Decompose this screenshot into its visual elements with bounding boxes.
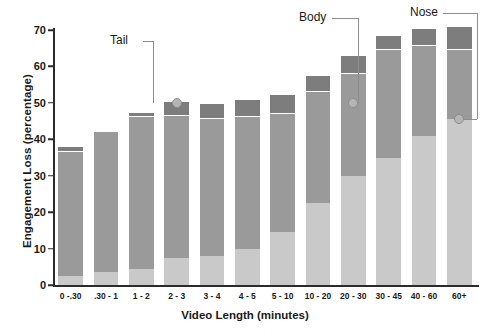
bar-segment-body: [164, 115, 189, 258]
bar-column: [94, 131, 119, 285]
bar-column: [200, 103, 225, 285]
annotation-marker-tail: [172, 98, 182, 108]
bar-segment-nose: [235, 249, 260, 285]
bar-segment-tail: [412, 28, 437, 45]
x-tick-label: 10 - 20: [305, 291, 331, 301]
x-tick-label: 3 - 4: [203, 291, 220, 301]
bar-segment-tail: [270, 94, 295, 113]
bar-segment-body: [412, 45, 437, 135]
bar-column: [306, 75, 331, 285]
engagement-loss-bar-chart: Engagement Loss (percentage) 01020304050…: [0, 0, 490, 336]
bar-segment-body: [94, 131, 119, 272]
bar-segment-tail: [341, 55, 366, 72]
bar-column: [235, 99, 260, 285]
x-tick-label: 4 - 5: [239, 291, 256, 301]
bar-segment-body: [341, 73, 366, 176]
bar-segment-nose: [129, 269, 154, 285]
bar-group: [53, 30, 477, 285]
annotation-leader-horizontal: [332, 18, 358, 19]
bar-segment-tail: [235, 99, 260, 116]
bar-segment-nose: [376, 158, 401, 286]
bar-segment-nose: [447, 119, 472, 285]
y-tick-label-0: 0: [40, 279, 46, 291]
x-tick-label: 0 -.30: [60, 291, 82, 301]
y-tick-label-20: 20: [34, 206, 46, 218]
bar-segment-body: [306, 91, 331, 203]
bar-segment-nose: [94, 272, 119, 285]
bar-segment-tail: [306, 75, 331, 91]
bar-segment-tail: [200, 103, 225, 119]
bar-segment-body: [129, 116, 154, 268]
annotation-leader-vertical: [477, 13, 478, 119]
plot-area: 010203040506070: [53, 30, 477, 285]
bar-segment-tail: [376, 35, 401, 49]
bar-segment-body: [58, 151, 83, 276]
x-axis-line: [53, 285, 479, 287]
bar-segment-nose: [306, 203, 331, 285]
bar-column: [129, 112, 154, 285]
bar-segment-body: [270, 113, 295, 232]
x-tick-label: 60+: [452, 291, 466, 301]
y-tick-label-10: 10: [34, 243, 46, 255]
bar-segment-body: [447, 49, 472, 119]
x-tick-label: 30 - 45: [375, 291, 401, 301]
annotation-marker-body: [348, 98, 358, 108]
bar-segment-body: [376, 49, 401, 157]
bar-column: [412, 28, 437, 285]
bar-segment-body: [200, 118, 225, 256]
x-tick-label: 5 - 10: [272, 291, 294, 301]
annotation-label-tail: Tail: [110, 33, 128, 47]
bar-segment-nose: [341, 176, 366, 285]
bar-segment-nose: [270, 232, 295, 285]
x-tick-label: .30 - 1: [94, 291, 118, 301]
x-tick-label: 2 - 3: [168, 291, 185, 301]
annotation-label-nose: Nose: [410, 5, 438, 19]
annotation-leader-horizontal: [143, 41, 153, 42]
x-axis-title: Video Length (minutes): [0, 309, 490, 321]
bar-column: [270, 94, 295, 285]
x-tick-label: 20 - 30: [340, 291, 366, 301]
bar-segment-nose: [58, 276, 83, 285]
x-tick-label: 40 - 60: [411, 291, 437, 301]
x-tick-label: 1 - 2: [133, 291, 150, 301]
bar-segment-tail: [447, 26, 472, 49]
y-tick-label-40: 40: [34, 133, 46, 145]
bar-segment-nose: [200, 256, 225, 285]
y-tick-label-70: 70: [34, 24, 46, 36]
bar-column: [164, 101, 189, 285]
y-tick-label-30: 30: [34, 170, 46, 182]
bar-segment-nose: [164, 258, 189, 285]
y-tick-label-50: 50: [34, 97, 46, 109]
y-axis-title: Engagement Loss (percentage): [21, 46, 33, 276]
annotation-label-body: Body: [299, 10, 326, 24]
bar-column: [341, 55, 366, 285]
annotation-leader-horizontal: [443, 13, 477, 14]
y-tick-label-60: 60: [34, 60, 46, 72]
annotation-leader-vertical: [358, 18, 359, 103]
annotation-marker-nose: [454, 114, 464, 124]
bar-column: [447, 26, 472, 285]
bar-column: [376, 35, 401, 285]
bar-segment-body: [235, 116, 260, 248]
bar-segment-nose: [412, 136, 437, 285]
bar-column: [58, 146, 83, 285]
annotation-leader-vertical: [153, 41, 154, 103]
